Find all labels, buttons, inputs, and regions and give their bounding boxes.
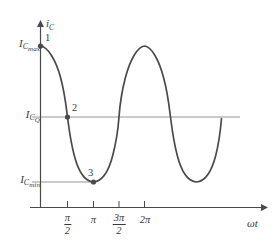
x-axis-label: ωt: [247, 218, 258, 229]
level-label-ic-min: ICmin: [6, 174, 40, 189]
level-label-ic-max: ICmax: [6, 38, 40, 53]
x-tick-label-three-pi-over-2: 3π 2: [113, 212, 126, 236]
point-marker-2: [65, 114, 70, 119]
waveform-plot: [0, 0, 275, 251]
y-axis-label: iC: [46, 18, 54, 32]
point-marker-3: [91, 179, 96, 184]
x-tick-label-pi: π: [91, 215, 96, 226]
x-tick-label-pi-over-2: π 2: [64, 212, 71, 236]
x-tick-label-two-pi: 2π: [140, 215, 151, 226]
point-label-2: 2: [72, 103, 77, 114]
level-label-ic-q: ICQ: [6, 109, 40, 124]
point-label-3: 3: [88, 168, 93, 179]
point-label-1: 1: [45, 33, 50, 44]
current-waveform: [41, 46, 222, 182]
waveform-figure: iC ICmax ICQ ICmin 1 2 3 π 2 π 3π 2 2π ω…: [0, 0, 275, 251]
